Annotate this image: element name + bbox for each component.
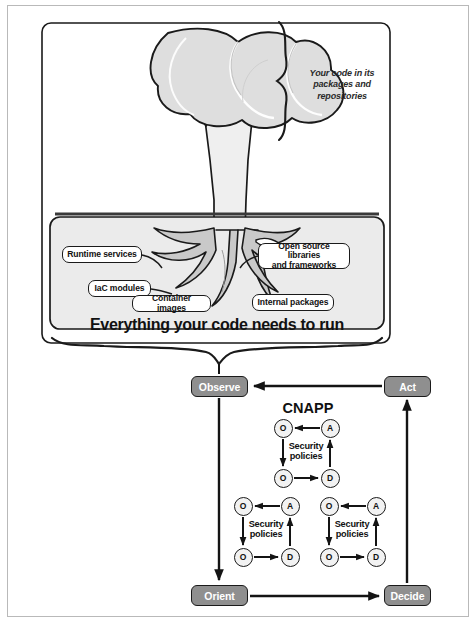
cnapp-loop-top-node-observe[interactable]: O — [274, 419, 293, 438]
node-letter: O — [240, 552, 247, 562]
node-letter: O — [280, 423, 287, 433]
node-letter: A — [373, 501, 379, 511]
ooda-box-orient[interactable]: Orient — [191, 585, 248, 606]
code-annotation-line1: Your code in its — [296, 68, 388, 79]
callout-open-source-libraries-label: Open source libraries and frameworks — [263, 242, 345, 271]
code-annotation-text: Your code in its packages and repositori… — [296, 68, 388, 102]
cnapp-title: CNAPP — [266, 400, 350, 416]
cnapp-loop-left-node-orient[interactable]: O — [234, 548, 253, 567]
node-letter: A — [287, 501, 293, 511]
code-annotation-line2: packages and repositories — [296, 79, 388, 102]
callout-container-images[interactable]: Container images — [132, 295, 211, 312]
cnapp-loop-right-node-decide[interactable]: D — [367, 548, 386, 567]
cnapp-loop-right-security-policies: Security policies — [323, 519, 381, 540]
node-letter: O — [280, 473, 287, 483]
node-letter: D — [327, 473, 333, 483]
node-letter: O — [326, 501, 333, 511]
ground-box-caption-wrap: Everything your code needs to run — [50, 316, 384, 334]
cnapp-title-wrap: CNAPP — [266, 400, 350, 416]
callout-iac-modules-label: IaC modules — [95, 284, 145, 294]
node-letter: D — [373, 552, 379, 562]
callout-open-source-libraries[interactable]: Open source libraries and frameworks — [258, 243, 350, 269]
callout-internal-packages[interactable]: Internal packages — [252, 294, 334, 311]
ooda-box-act[interactable]: Act — [384, 376, 431, 397]
ooda-box-observe[interactable]: Observe — [191, 376, 248, 397]
cnapp-loop-right-node-orient[interactable]: O — [320, 548, 339, 567]
cnapp-loop-right-node-act[interactable]: A — [367, 497, 386, 516]
node-letter: O — [326, 552, 333, 562]
node-letter: O — [240, 501, 247, 511]
ooda-box-decide[interactable]: Decide — [384, 585, 431, 606]
cnapp-loop-left-node-act[interactable]: A — [281, 497, 300, 516]
ooda-box-observe-label: Observe — [199, 381, 240, 393]
ooda-box-decide-label: Decide — [391, 590, 425, 602]
node-letter: A — [327, 423, 333, 433]
callout-runtime-services-label: Runtime services — [67, 250, 137, 260]
cnapp-loop-top-node-act[interactable]: A — [321, 419, 340, 438]
node-letter: D — [287, 552, 293, 562]
cnapp-loop-left-node-decide[interactable]: D — [281, 548, 300, 567]
ooda-box-act-label: Act — [399, 381, 416, 393]
callout-container-images-label: Container images — [137, 294, 206, 313]
ooda-box-orient-label: Orient — [204, 590, 234, 602]
cnapp-loop-top-node-orient[interactable]: O — [274, 469, 293, 488]
cnapp-loop-top-node-decide[interactable]: D — [321, 469, 340, 488]
cnapp-loop-top-security-policies: Security policies — [277, 441, 335, 462]
cnapp-loop-left-security-policies: Security policies — [237, 519, 295, 540]
ground-platform-box — [50, 214, 384, 329]
diagram-page: Your code in its packages and repositori… — [0, 0, 476, 624]
cnapp-loop-right-node-observe[interactable]: O — [320, 497, 339, 516]
cnapp-loop-left-node-observe[interactable]: O — [234, 497, 253, 516]
ground-box-caption: Everything your code needs to run — [50, 316, 384, 334]
callout-internal-packages-label: Internal packages — [258, 298, 329, 308]
callout-runtime-services[interactable]: Runtime services — [62, 246, 142, 263]
